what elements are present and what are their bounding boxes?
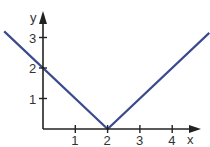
y-tick-label: 2 — [29, 61, 36, 76]
y-tick-label: 1 — [29, 92, 36, 107]
x-tick-label: 3 — [136, 133, 143, 147]
function-line — [4, 31, 209, 129]
x-axis-label: x — [187, 132, 194, 147]
function-graph: x y 1234 123 — [0, 0, 210, 147]
y-axis-label: y — [30, 10, 37, 25]
x-tick-label: 2 — [104, 133, 111, 147]
x-tick-label: 1 — [71, 133, 78, 147]
y-ticks: 123 — [29, 31, 47, 107]
x-tick-label: 4 — [168, 133, 175, 147]
y-axis-arrow-icon — [39, 11, 47, 24]
y-tick-label: 3 — [29, 31, 36, 46]
